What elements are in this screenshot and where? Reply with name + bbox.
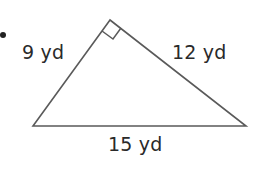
right-leg-label: 12 yd (172, 41, 227, 63)
left-leg-label: 9 yd (22, 41, 64, 63)
triangle-shape (33, 20, 246, 126)
bullet-dot (0, 32, 6, 38)
right-angle-marker (102, 28, 121, 39)
hypotenuse-label: 15 yd (108, 133, 163, 155)
triangle-diagram (0, 0, 255, 194)
